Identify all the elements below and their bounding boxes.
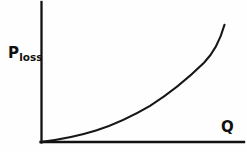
chart-figure: Ploss Q	[0, 0, 247, 152]
plot-area	[0, 0, 247, 152]
y-axis-label-main: P	[8, 44, 19, 62]
power-loss-curve	[42, 25, 225, 142]
y-axis-label: Ploss	[8, 46, 43, 61]
x-axis-label: Q	[221, 120, 234, 135]
y-axis-label-subscript: loss	[19, 51, 42, 63]
